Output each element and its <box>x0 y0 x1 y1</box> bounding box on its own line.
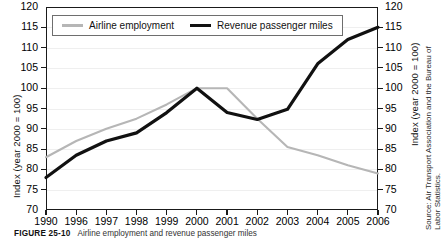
legend-item: Revenue passenger miles <box>190 20 333 31</box>
caption-text: Airline employment and revenue passenger… <box>78 229 257 238</box>
figure-caption: FIGURE 25-10Airline employment and reven… <box>14 229 434 238</box>
legend-swatch-icon <box>190 24 211 27</box>
series-line <box>46 27 378 177</box>
legend-label: Revenue passenger miles <box>217 20 333 31</box>
legend-label: Airline employment <box>89 20 174 31</box>
legend-swatch-icon <box>62 24 83 26</box>
legend-item: Airline employment <box>62 20 174 31</box>
chart-legend: Airline employmentRevenue passenger mile… <box>52 15 343 36</box>
caption-figure-number: FIGURE 25-10 <box>14 229 71 238</box>
